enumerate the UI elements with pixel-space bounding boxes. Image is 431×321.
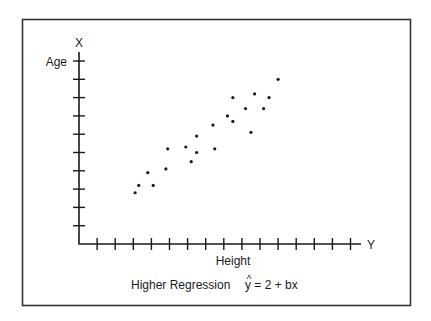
data-point — [134, 191, 137, 194]
data-point — [184, 145, 187, 148]
data-point — [262, 107, 265, 110]
chart-caption: Higher Regression — [131, 278, 230, 292]
data-point — [146, 171, 149, 174]
data-point — [249, 131, 252, 134]
data-point — [226, 114, 229, 117]
data-point — [231, 96, 234, 99]
y-axis-letter: X — [75, 36, 83, 50]
data-point — [253, 92, 256, 95]
data-point — [231, 120, 234, 123]
data-point — [137, 184, 140, 187]
data-point — [277, 78, 280, 81]
regression-equation: y = 2 + bx — [245, 278, 298, 292]
data-point — [152, 184, 155, 187]
y-axis-label: Age — [46, 55, 68, 69]
data-point — [164, 167, 167, 170]
data-point — [190, 160, 193, 163]
data-point — [211, 123, 214, 126]
x-axis-letter: Y — [367, 238, 375, 252]
x-axis-label: Height — [216, 254, 251, 268]
data-point — [213, 147, 216, 150]
data-point — [267, 96, 270, 99]
data-point — [195, 151, 198, 154]
data-point — [244, 107, 247, 110]
data-point — [195, 134, 198, 137]
scatter-chart: X Age Y Height Higher Regression ^ y = 2… — [0, 0, 431, 321]
data-point — [166, 147, 169, 150]
